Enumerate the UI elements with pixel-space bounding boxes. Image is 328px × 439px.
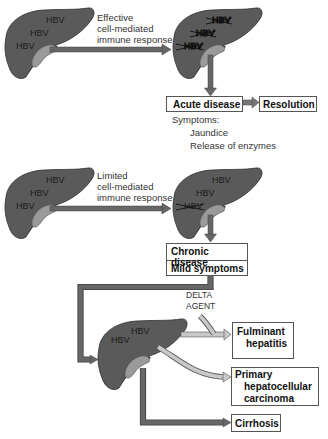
- svg-text:HBV: HBV: [212, 175, 231, 185]
- liver-cleared: HBV HBV HBV: [173, 8, 262, 79]
- delta-agent-label: DELTA AGENT: [186, 290, 215, 312]
- cirrhosis-box: Cirrhosis: [231, 414, 281, 432]
- arrow-to-fulminant: [181, 329, 231, 340]
- limited-response-label: Limited cell-mediated immune response: [97, 170, 173, 203]
- symptoms-heading: Symptoms:: [172, 114, 220, 125]
- arrow-to-resolution: [243, 97, 259, 108]
- hepatocellular-carcinoma-box: Primary hepatocellular carcinoma: [231, 367, 319, 406]
- svg-text:HBV: HBV: [16, 201, 35, 211]
- fulminant-hepatitis-box: Fulminant hepatitis: [232, 322, 294, 359]
- svg-text:HBV: HBV: [196, 188, 215, 198]
- effective-response-label: Effective cell-mediated immune response: [97, 12, 173, 45]
- arrow-delta-agent: [200, 316, 214, 334]
- acute-disease-box: Acute disease: [166, 96, 243, 112]
- chronic-disease-box: Chronic disease Mild symptoms: [166, 243, 248, 276]
- chronic-disease-label: Chronic disease: [167, 244, 247, 261]
- arrow-limited-response: [50, 203, 171, 214]
- hbv-label: HBV: [16, 41, 35, 51]
- arrow-to-carcinoma: [158, 347, 231, 382]
- liver-infected-1: HBV HBV HBV: [5, 8, 94, 79]
- hbv-label: HBV: [30, 28, 49, 38]
- resolution-box: Resolution: [259, 96, 317, 112]
- hbv-label: HBV: [46, 15, 65, 25]
- arrow-effective-response: [50, 44, 171, 55]
- mild-symptoms-label: Mild symptoms: [167, 261, 247, 274]
- svg-text:HBV: HBV: [111, 335, 130, 345]
- svg-text:HBV: HBV: [30, 188, 49, 198]
- svg-text:HBV: HBV: [131, 326, 150, 336]
- liver-infected-2: HBV HBV HBV: [5, 168, 94, 239]
- svg-text:HBV: HBV: [46, 175, 65, 185]
- symptom-enzymes: Release of enzymes: [190, 140, 276, 151]
- liver-partially-cleared: HBV HBV HBV: [173, 168, 262, 239]
- symptom-jaundice: Jaundice: [190, 127, 228, 138]
